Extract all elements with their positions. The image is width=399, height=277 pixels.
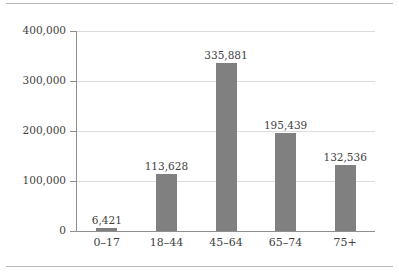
- x-axis-category-label: 0–17: [94, 236, 121, 249]
- bottom-divider-rule: [6, 266, 393, 267]
- bar[interactable]: [156, 174, 177, 231]
- bar[interactable]: [216, 63, 237, 231]
- x-axis-category-label: 45–64: [209, 236, 243, 249]
- bar-value-label: 195,439: [264, 119, 307, 131]
- bar[interactable]: [335, 165, 356, 231]
- top-divider-rule: [6, 3, 393, 4]
- x-axis-category-label: 75+: [334, 236, 357, 249]
- y-axis-tick-label: 400,000: [0, 25, 66, 36]
- bar-value-label: 113,628: [145, 160, 188, 172]
- x-axis-category-label: 65–74: [269, 236, 303, 249]
- x-axis-line: [77, 231, 375, 232]
- bar[interactable]: [275, 133, 296, 231]
- y-axis-tick: [70, 231, 76, 232]
- gridline: [77, 31, 375, 32]
- bar[interactable]: [96, 228, 117, 231]
- y-axis-tick: [70, 31, 76, 32]
- x-axis-category-label: 18–44: [150, 236, 184, 249]
- y-axis-tick: [70, 131, 76, 132]
- bar-chart-figure: 0100,000200,000300,000400,000 6,421113,6…: [0, 0, 399, 277]
- bar-value-label: 132,536: [323, 151, 366, 163]
- y-axis-tick: [70, 81, 76, 82]
- y-axis-tick-label: 300,000: [0, 75, 66, 86]
- bar-value-label: 335,881: [204, 49, 247, 61]
- bar-value-label: 6,421: [92, 214, 122, 226]
- y-axis-tick-label: 100,000: [0, 175, 66, 186]
- y-axis-tick-label: 0: [0, 225, 66, 236]
- y-axis-tick-label: 200,000: [0, 125, 66, 136]
- y-axis-tick: [70, 181, 76, 182]
